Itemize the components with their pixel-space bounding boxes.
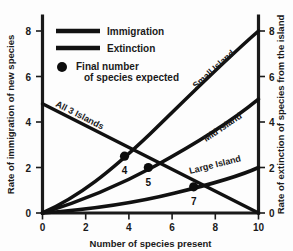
point-marker-4: [120, 152, 129, 161]
x-axis-title: Number of species present: [90, 238, 213, 249]
right-axis-title: Rate of extinction of species from the i…: [275, 15, 286, 215]
curve-label-mid-island: Mid Island: [202, 111, 244, 144]
legend-label-immigration: Immigration: [107, 26, 164, 37]
legend-swatch-final-number-dot: [57, 62, 67, 72]
left-ticklabel-4: 4: [25, 117, 31, 128]
island-biogeography-chart: 0 2 4 6 8 0 2 4 6 8: [0, 0, 293, 251]
legend-label-extinction: Extinction: [107, 43, 155, 54]
point-label-4: 4: [122, 165, 128, 176]
x-ticklabel-6: 6: [169, 222, 175, 233]
x-ticklabel-10: 10: [253, 222, 265, 233]
point-marker-7: [189, 182, 198, 191]
curve-large-island: [43, 168, 259, 214]
left-axis-title: Rate of immigration of new species: [5, 35, 16, 194]
x-ticklabel-4: 4: [126, 222, 132, 233]
legend: Immigration Extinction Final number of s…: [56, 26, 179, 83]
x-axis-tick-labels: 0 2 4 6 8 10: [40, 222, 265, 233]
point-label-5: 5: [146, 177, 152, 188]
legend-label-final-number: Final number: [76, 61, 139, 72]
x-ticklabel-2: 2: [83, 222, 89, 233]
left-ticklabel-0: 0: [25, 208, 31, 219]
curve-label-large-island: Large Island: [188, 153, 242, 176]
legend-label-final-number-line2: of species expected: [84, 72, 179, 83]
x-ticklabel-0: 0: [40, 222, 46, 233]
curve-label-small-island: Small Island: [191, 48, 237, 91]
point-marker-5: [144, 163, 153, 172]
left-axis-tick-labels: 0 2 4 6 8: [25, 26, 31, 219]
left-ticklabel-6: 6: [25, 72, 31, 83]
x-ticklabel-8: 8: [213, 222, 219, 233]
chart-canvas: 0 2 4 6 8 0 2 4 6 8: [0, 0, 293, 251]
left-ticklabel-8: 8: [25, 26, 31, 37]
point-label-7: 7: [191, 196, 197, 207]
left-ticklabel-2: 2: [25, 163, 31, 174]
